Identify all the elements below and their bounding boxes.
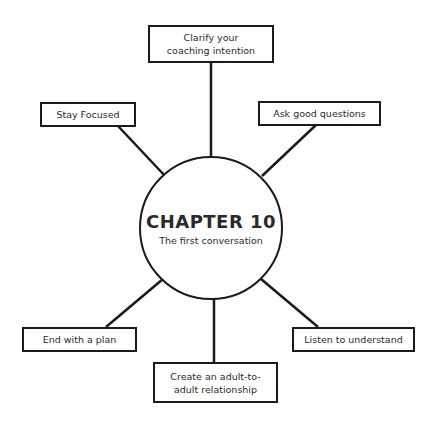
connector-lower-left xyxy=(106,279,163,327)
node-adult-relationship: Create an adult-to-adult relationship xyxy=(153,362,278,403)
node-label: Stay Focused xyxy=(56,108,119,121)
node-label: Clarify your coaching intention xyxy=(162,31,260,57)
node-label: End with a plan xyxy=(43,333,117,346)
connector-lower-right xyxy=(261,279,318,327)
node-stay-focused: Stay Focused xyxy=(40,102,136,127)
central-topic: CHAPTER 10 The first conversation xyxy=(139,156,283,300)
node-clarify-intention: Clarify your coaching intention xyxy=(148,25,274,63)
chapter-subtitle: The first conversation xyxy=(159,235,263,246)
node-listen-to-understand: Listen to understand xyxy=(292,327,415,352)
node-label: Ask good questions xyxy=(273,107,366,120)
connector-upper-right xyxy=(262,125,316,176)
connector-upper-left xyxy=(118,126,166,177)
chapter-title: CHAPTER 10 xyxy=(146,211,276,232)
node-ask-good-questions: Ask good questions xyxy=(258,101,381,126)
node-label: Listen to understand xyxy=(304,333,402,346)
node-label: Create an adult-to-adult relationship xyxy=(165,370,266,396)
node-end-with-plan: End with a plan xyxy=(22,327,137,352)
